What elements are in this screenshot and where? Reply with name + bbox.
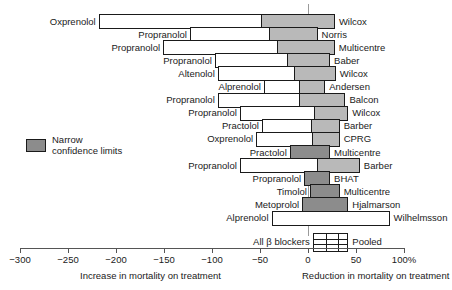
row-study-label: Barber xyxy=(360,161,393,171)
axis-tick xyxy=(404,248,405,253)
pooled-study-label: Pooled xyxy=(348,237,382,247)
row-drug-label: Propranolol xyxy=(188,108,240,118)
axis-tick-label: −100 xyxy=(201,254,222,265)
row-study-label: Multicentre xyxy=(335,43,385,53)
forest-plot-chart: OxprenololWilcoxPropranololNorrisPropran… xyxy=(0,0,452,290)
axis-tick-label: −150 xyxy=(153,254,174,265)
x-axis-title-right: Reduction in mortality on treatment xyxy=(302,270,449,281)
row-study-label: Multicentre xyxy=(330,148,380,158)
row-drug-label: Propranolol xyxy=(163,56,215,66)
row-drug-label: Propranolol xyxy=(253,174,305,184)
x-axis-title-left: Increase in mortality on treatment xyxy=(80,270,221,281)
study-row: AlprenololWilhelmsson xyxy=(272,211,390,226)
row-drug-label: Propranolol xyxy=(138,30,190,40)
row-drug-label: Timolol xyxy=(277,187,310,197)
row-drug-label: Propranolol xyxy=(111,43,163,53)
row-study-label: Norris xyxy=(318,30,347,40)
study-row: PropranololBarber xyxy=(240,158,360,173)
row-drug-label: Oxprenolol xyxy=(207,135,256,145)
row-drug-label: Alprenolol xyxy=(226,213,271,223)
axis-tick xyxy=(308,248,309,253)
legend-swatch-narrow-confidence xyxy=(26,139,46,152)
axis-tick xyxy=(68,248,69,253)
confidence-interval-bar xyxy=(272,211,390,226)
axis-tick xyxy=(20,248,21,253)
row-study-label: Multicentre xyxy=(340,187,390,197)
row-drug-label: Propranolol xyxy=(166,95,218,105)
row-drug-label: Practolol xyxy=(222,122,262,132)
axis-tick-label: −300 xyxy=(9,254,30,265)
row-study-label: Wilcox xyxy=(336,69,368,79)
row-study-label: Barber xyxy=(340,122,373,132)
axis-tick xyxy=(356,248,357,253)
axis-tick-label: 100% xyxy=(392,254,416,265)
row-study-label: Hjalmarson xyxy=(348,200,400,210)
row-study-label: Andersen xyxy=(325,82,370,92)
axis-tick xyxy=(116,248,117,253)
row-drug-label: Practolol xyxy=(250,148,290,158)
row-drug-label: Propranolol xyxy=(188,161,240,171)
axis-tick xyxy=(164,248,165,253)
row-drug-label: Metoprolol xyxy=(255,200,302,210)
legend: Narrow confidence limits xyxy=(26,134,146,156)
row-drug-label: Altenolol xyxy=(178,69,217,79)
pooled-drug-label: All β blockers xyxy=(253,237,313,247)
row-drug-label: Alprenolol xyxy=(219,82,264,92)
axis-tick-label: 0 xyxy=(305,254,310,265)
row-study-label: CPRG xyxy=(340,135,371,145)
row-study-label: Wilcox xyxy=(335,17,367,27)
axis-tick-label: −50 xyxy=(252,254,268,265)
row-study-label: Wilcox xyxy=(348,108,380,118)
axis-tick-label: 50 xyxy=(351,254,362,265)
axis-tick-label: −200 xyxy=(105,254,126,265)
axis-tick xyxy=(260,248,261,253)
row-drug-label: Oxprenolol xyxy=(50,17,99,27)
row-study-label: Baber xyxy=(330,56,359,66)
axis-tick xyxy=(212,248,213,253)
axis-tick-label: −250 xyxy=(57,254,78,265)
row-study-label: Balcon xyxy=(345,95,378,105)
row-study-label: BHAT xyxy=(330,174,359,184)
row-study-label: Wilhelmsson xyxy=(390,213,448,223)
legend-label: Narrow confidence limits xyxy=(52,134,122,156)
